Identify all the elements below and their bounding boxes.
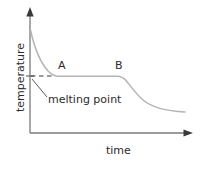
melting-point-label: melting point [48,94,121,105]
y-axis-label: temperature [15,38,26,118]
y-axis-arrowhead [26,7,33,17]
point-b-label: B [115,60,123,71]
point-a-label: A [58,60,66,71]
cooling-curve-plot [0,0,202,169]
x-axis [30,129,193,136]
cooling-curve-figure: temperature time A B melting point [0,0,202,169]
melting-point-leader-line [32,79,47,97]
y-axis [26,7,33,133]
x-axis-label: time [106,145,131,156]
x-axis-arrowhead [184,129,194,136]
